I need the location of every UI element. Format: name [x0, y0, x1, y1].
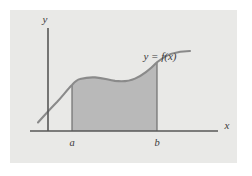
curve-equation-label: y = f(x) [142, 50, 176, 63]
y-axis-label: y [42, 13, 48, 25]
area-under-curve-figure: y x a b y = f(x) [0, 0, 252, 176]
x-axis-label: x [224, 119, 230, 131]
lower-bound-label-a: a [69, 137, 74, 148]
figure-container: y x a b y = f(x) [0, 0, 252, 176]
upper-bound-label-b: b [154, 137, 159, 148]
